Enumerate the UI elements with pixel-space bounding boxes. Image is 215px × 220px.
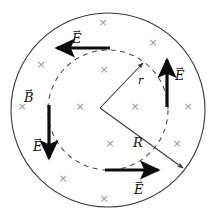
label-e-field-top: → E (72, 32, 82, 45)
field-cross-icon: × (58, 172, 67, 185)
physics-figure: ×××××××××××× → E → E → E → E → (0, 0, 215, 220)
label-b-field: → B (24, 91, 34, 104)
vector-arrow-icon: → (33, 135, 43, 144)
field-cross-icon: × (183, 100, 192, 113)
vector-arrow-icon: → (134, 178, 144, 187)
field-cross-icon: × (105, 137, 114, 150)
field-cross-icon: × (98, 16, 107, 29)
field-cross-icon: × (75, 100, 84, 113)
vector-arrow-icon: → (24, 86, 34, 95)
field-cross-icon: × (99, 63, 108, 76)
label-radius-r: r (138, 75, 143, 86)
outer-boundary-circle (11, 13, 205, 207)
label-radius-R: R (133, 136, 143, 149)
field-cross-icon: × (99, 192, 108, 205)
field-cross-icon: × (148, 36, 157, 49)
label-e-field-bottom: → E (134, 183, 144, 196)
vector-arrow-icon: → (175, 64, 185, 73)
label-e-field-right: → E (175, 69, 185, 82)
magnetic-field-crosses: ×××××××××××× (17, 16, 192, 205)
figure-canvas: ×××××××××××× (0, 0, 215, 220)
field-cross-icon: × (172, 137, 181, 150)
label-e-field-left: → E (33, 140, 43, 153)
field-cross-icon: × (130, 100, 139, 113)
field-cross-icon: × (36, 58, 45, 71)
vector-arrow-icon: → (72, 27, 82, 36)
